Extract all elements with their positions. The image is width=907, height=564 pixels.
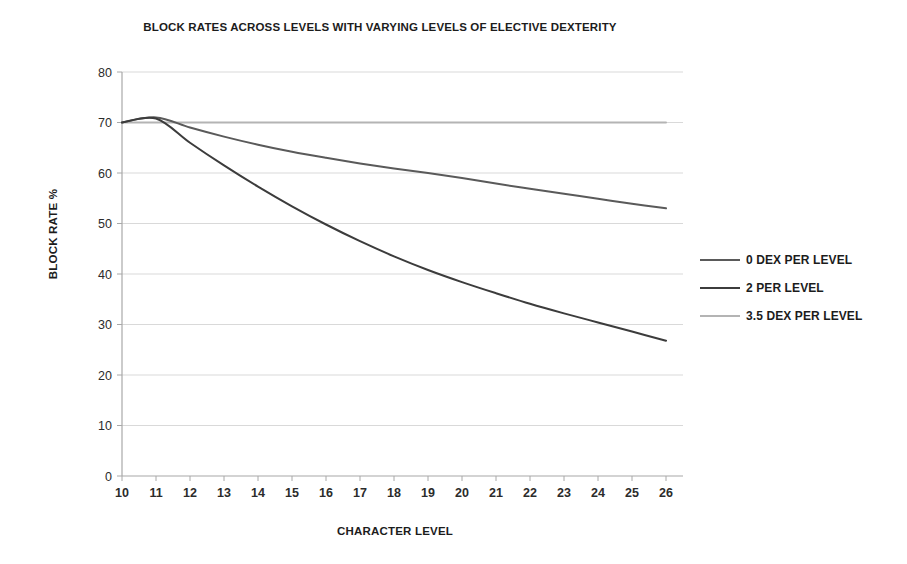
svg-text:70: 70: [98, 116, 112, 130]
svg-text:24: 24: [591, 486, 605, 500]
axis-lines: [117, 72, 683, 481]
svg-text:60: 60: [98, 167, 112, 181]
svg-text:14: 14: [251, 486, 265, 500]
legend-line-swatch-icon: [700, 287, 740, 289]
x-axis-title: CHARACTER LEVEL: [122, 525, 668, 537]
svg-text:0: 0: [105, 470, 112, 484]
svg-text:18: 18: [387, 486, 401, 500]
x-axis-tick-labels: 1011121314151617181920212223242526: [115, 486, 673, 500]
svg-text:22: 22: [523, 486, 537, 500]
svg-text:17: 17: [353, 486, 367, 500]
svg-text:30: 30: [98, 318, 112, 332]
svg-text:40: 40: [98, 268, 112, 282]
svg-text:21: 21: [489, 486, 503, 500]
legend-item-label: 2 PER LEVEL: [746, 281, 824, 295]
legend-item-2[interactable]: 2 PER LEVEL: [700, 274, 900, 302]
chart-legend: 0 DEX PER LEVEL2 PER LEVEL3.5 DEX PER LE…: [700, 246, 900, 330]
legend-line-swatch-icon: [700, 259, 740, 261]
chart-container: BLOCK RATES ACROSS LEVELS WITH VARYING L…: [0, 0, 907, 564]
gridlines: [122, 72, 683, 426]
svg-text:13: 13: [217, 486, 231, 500]
svg-text:19: 19: [421, 486, 435, 500]
legend-item-1[interactable]: 0 DEX PER LEVEL: [700, 246, 900, 274]
svg-text:10: 10: [115, 486, 129, 500]
svg-text:12: 12: [183, 486, 197, 500]
svg-text:20: 20: [455, 486, 469, 500]
svg-text:23: 23: [557, 486, 571, 500]
y-axis-tick-labels: 01020304050607080: [98, 66, 112, 484]
svg-text:11: 11: [149, 486, 162, 500]
y-axis-title: BLOCK RATE %: [47, 169, 59, 299]
svg-text:10: 10: [98, 419, 112, 433]
svg-text:26: 26: [659, 486, 673, 500]
svg-text:16: 16: [319, 486, 333, 500]
legend-item-3[interactable]: 3.5 DEX PER LEVEL: [700, 302, 900, 330]
svg-text:50: 50: [98, 217, 112, 231]
data-series-lines: [122, 117, 666, 340]
legend-line-swatch-icon: [700, 315, 740, 317]
legend-item-label: 0 DEX PER LEVEL: [746, 253, 852, 267]
legend-item-label: 3.5 DEX PER LEVEL: [746, 309, 862, 323]
svg-text:20: 20: [98, 369, 112, 383]
svg-text:15: 15: [285, 486, 299, 500]
svg-text:25: 25: [625, 486, 639, 500]
svg-text:80: 80: [98, 66, 112, 80]
